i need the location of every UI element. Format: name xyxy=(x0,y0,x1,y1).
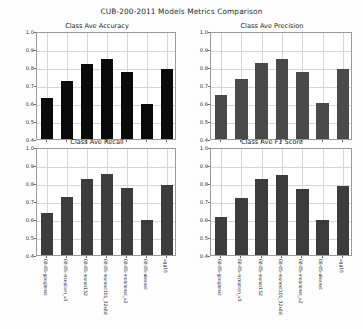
bar[interactable] xyxy=(101,59,113,139)
y-axis-tick-mark xyxy=(208,50,210,51)
x-axis-tick-mark xyxy=(86,256,87,258)
bar[interactable] xyxy=(276,59,289,139)
chart-title: Class Ave Accuracy xyxy=(14,22,180,30)
y-axis-tick-mark xyxy=(34,32,36,33)
y-axis-tick-label: 0.5 xyxy=(26,235,34,241)
y-axis-tick-label: 0.9 xyxy=(200,47,208,53)
figure-suptitle: CUB-200-2011 Models Metrics Comparison xyxy=(0,7,363,16)
x-axis-tick-mark xyxy=(261,256,262,258)
x-axis-tick-label: 08-05-resnet152 xyxy=(83,259,88,296)
x-axis-tick-mark xyxy=(66,256,67,258)
bar[interactable] xyxy=(337,186,350,255)
y-axis-tick-label: 0.9 xyxy=(26,163,34,169)
x-axis-tick-mark xyxy=(220,256,221,258)
y-axis-tick-mark xyxy=(34,202,36,203)
gridline-horizontal xyxy=(211,167,351,168)
x-axis-tick-label: 08-05-googlenet xyxy=(43,259,48,296)
bar[interactable] xyxy=(235,198,248,255)
bar[interactable] xyxy=(81,179,93,255)
bar[interactable] xyxy=(121,188,133,255)
y-axis-tick-label: 0.8 xyxy=(26,65,34,71)
bar[interactable] xyxy=(161,185,173,255)
bar[interactable] xyxy=(296,189,309,255)
gridline-horizontal xyxy=(37,167,175,168)
y-axis-tick-label: 0.6 xyxy=(26,101,34,107)
y-axis-tick-mark xyxy=(208,238,210,239)
x-axis-tick-label: vgg16 xyxy=(339,259,344,273)
plot-area xyxy=(210,148,352,256)
bar[interactable] xyxy=(61,81,73,139)
y-axis-tick-label: 0.6 xyxy=(26,217,34,223)
y-axis-tick-mark xyxy=(208,184,210,185)
bar[interactable] xyxy=(296,72,309,140)
bar[interactable] xyxy=(316,103,329,139)
x-axis-tick-label: 08-05-alexnet xyxy=(143,259,148,290)
x-axis-tick-label: 08-05-alexnet xyxy=(318,259,323,290)
chart-panel-f1: Class Ave F1 Score 0.40.50.60.70.80.91.0… xyxy=(188,138,356,328)
plot-area xyxy=(36,32,176,140)
y-axis-tick-mark xyxy=(208,256,210,257)
chart-panel-accuracy: Class Ave Accuracy 0.40.50.60.70.80.91.0 xyxy=(14,22,180,152)
bar[interactable] xyxy=(141,104,153,139)
x-axis-tick-label: 08-05-mobilenet_v2 xyxy=(298,259,303,303)
x-axis-tick-mark xyxy=(322,256,323,258)
y-axis-tick-label: 0.9 xyxy=(26,47,34,53)
y-axis-tick-label: 1.0 xyxy=(200,29,208,35)
y-axis-tick-label: 0.6 xyxy=(200,101,208,107)
bar[interactable] xyxy=(41,213,53,255)
bar[interactable] xyxy=(81,64,93,139)
y-axis-tick-label: 0.4 xyxy=(200,253,208,259)
bar[interactable] xyxy=(215,217,228,255)
y-axis-tick-mark xyxy=(208,166,210,167)
x-axis-tick-mark xyxy=(281,256,282,258)
y-axis-tick-mark xyxy=(34,104,36,105)
gridline-horizontal xyxy=(37,51,175,52)
chart-panel-recall: Class Ave Recall 0.40.50.60.70.80.91.008… xyxy=(14,138,180,328)
x-axis-tick-mark xyxy=(166,256,167,258)
y-axis-tick-label: 1.0 xyxy=(200,145,208,151)
bar[interactable] xyxy=(121,72,133,139)
bar[interactable] xyxy=(61,197,73,255)
chart-title: Class Ave F1 Score xyxy=(188,138,356,146)
x-axis-tick-mark xyxy=(126,256,127,258)
bar[interactable] xyxy=(255,63,268,139)
y-axis-tick-mark xyxy=(208,68,210,69)
bar[interactable] xyxy=(161,69,173,139)
y-axis-tick-mark xyxy=(34,184,36,185)
y-axis-tick-mark xyxy=(208,104,210,105)
x-axis-tick-label: 08-05-inception_v3 xyxy=(63,259,68,301)
x-axis-tick-label: 08-05-inception_v3 xyxy=(237,259,242,301)
y-axis-tick-mark xyxy=(208,122,210,123)
y-axis-tick-label: 0.7 xyxy=(200,199,208,205)
bar[interactable] xyxy=(141,220,153,255)
x-axis-tick-label: vgg16 xyxy=(163,259,168,273)
y-axis-tick-mark xyxy=(208,148,210,149)
y-axis-tick-mark xyxy=(34,86,36,87)
bar[interactable] xyxy=(255,179,268,255)
bar[interactable] xyxy=(41,98,53,139)
x-axis-tick-mark xyxy=(146,256,147,258)
y-axis-tick-label: 0.6 xyxy=(200,217,208,223)
chart-title: Class Ave Precision xyxy=(188,22,356,30)
gridline-horizontal xyxy=(211,51,351,52)
x-axis-tick-label: 08-05-resnext101_32x8d xyxy=(103,259,108,314)
bar[interactable] xyxy=(215,95,228,139)
y-axis-tick-mark xyxy=(34,220,36,221)
x-axis-tick-label: 08-05-mobilenet_v2 xyxy=(123,259,128,303)
x-axis-tick-label: 08-05-resnext101_32x8d xyxy=(278,259,283,314)
y-axis-tick-mark xyxy=(34,148,36,149)
y-axis-tick-label: 0.5 xyxy=(200,119,208,125)
bar[interactable] xyxy=(235,79,248,139)
bar[interactable] xyxy=(316,220,329,255)
y-axis-tick-mark xyxy=(34,68,36,69)
y-axis-tick-mark xyxy=(208,86,210,87)
plot-area xyxy=(36,148,176,256)
bar[interactable] xyxy=(276,175,289,255)
y-axis-tick-mark xyxy=(34,238,36,239)
y-axis-tick-mark xyxy=(34,122,36,123)
y-axis-tick-label: 0.5 xyxy=(200,235,208,241)
y-axis-tick-label: 0.7 xyxy=(26,199,34,205)
y-axis-tick-label: 0.4 xyxy=(26,253,34,259)
bar[interactable] xyxy=(101,174,113,255)
bar[interactable] xyxy=(337,69,350,139)
